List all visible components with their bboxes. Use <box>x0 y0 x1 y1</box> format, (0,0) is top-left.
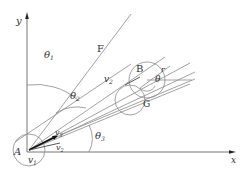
label-A: A <box>13 146 21 157</box>
label-F: F <box>97 43 104 54</box>
label-v2: v2 <box>56 143 64 153</box>
y-axis-label: y <box>15 15 22 26</box>
label-v2-B: v2 <box>104 74 113 85</box>
x-axis-arrow-icon <box>229 150 236 154</box>
label-theta-B: θ <box>155 74 161 84</box>
cone-lines <box>15 57 195 150</box>
line-F <box>29 14 131 150</box>
vector-v2-B <box>125 77 140 85</box>
x-axis-label: x <box>231 155 236 165</box>
collision-avoidance-diagram: y x F G B r θ v2 A v1 <box>0 0 252 177</box>
diagram-svg: y x F G B r θ v2 A v1 <box>0 0 252 177</box>
label-theta3: θ3 <box>95 130 105 142</box>
label-G: G <box>143 99 150 109</box>
label-theta1: θ1 <box>44 49 54 61</box>
y-axis-arrow-icon <box>25 12 29 19</box>
circle-G <box>115 85 145 115</box>
label-v1: v1 <box>28 155 37 166</box>
label-v3: v3 <box>55 128 63 138</box>
label-theta2: θ2 <box>70 90 80 102</box>
arc-theta3 <box>89 125 92 152</box>
label-B: B <box>136 63 143 74</box>
vector-v3 <box>29 137 55 150</box>
